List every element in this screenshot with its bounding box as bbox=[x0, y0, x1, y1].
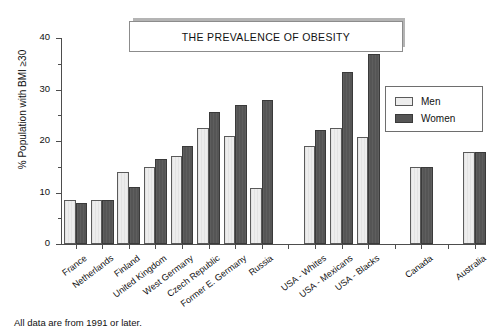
bar-women bbox=[182, 146, 193, 244]
bar-women bbox=[76, 203, 87, 244]
chart-footnote: All data are from 1991 or later. bbox=[14, 317, 142, 328]
x-tick bbox=[475, 245, 476, 249]
y-tick-label: 30 bbox=[26, 83, 50, 94]
chart-legend: Men Women bbox=[385, 86, 483, 132]
legend-swatch-women-icon bbox=[395, 114, 413, 123]
x-tick bbox=[102, 245, 103, 249]
bar-men bbox=[91, 200, 102, 244]
y-tick-major bbox=[56, 193, 62, 194]
x-tick bbox=[129, 245, 130, 249]
y-tick-label: 10 bbox=[26, 186, 50, 197]
bar-men bbox=[304, 146, 315, 244]
bar-men bbox=[117, 172, 128, 244]
bar-men bbox=[330, 128, 341, 244]
y-tick-major bbox=[56, 38, 62, 39]
bar-women bbox=[155, 159, 166, 244]
bar-women bbox=[475, 152, 486, 244]
bar-men bbox=[357, 137, 368, 244]
bar-women bbox=[209, 112, 220, 244]
x-tick bbox=[315, 245, 316, 249]
y-tick-minor bbox=[58, 167, 62, 168]
y-tick-major bbox=[56, 141, 62, 142]
legend-swatch-men-icon bbox=[395, 97, 413, 106]
bar-men bbox=[197, 128, 208, 244]
x-tick bbox=[76, 245, 77, 249]
x-tick bbox=[421, 245, 422, 249]
bar-men bbox=[64, 200, 75, 244]
bar-women bbox=[262, 100, 273, 244]
bar-women bbox=[315, 130, 326, 244]
bar-men bbox=[410, 167, 421, 244]
legend-entry-women: Women bbox=[395, 111, 455, 125]
x-tick-empty-slot bbox=[448, 245, 449, 249]
y-tick-major bbox=[56, 244, 62, 245]
bar-women bbox=[235, 105, 246, 244]
bar-women bbox=[129, 187, 140, 244]
bar-women bbox=[342, 72, 353, 244]
y-tick-major bbox=[56, 90, 62, 91]
legend-entry-men: Men bbox=[395, 94, 440, 108]
y-tick-minor bbox=[58, 64, 62, 65]
x-tick bbox=[262, 245, 263, 249]
x-tick bbox=[342, 245, 343, 249]
x-tick-empty-slot bbox=[395, 245, 396, 249]
bar-men bbox=[144, 167, 155, 244]
legend-label-women: Women bbox=[421, 113, 455, 124]
bar-men bbox=[171, 156, 182, 244]
y-tick-label: 40 bbox=[26, 31, 50, 42]
x-tick-empty-slot bbox=[288, 245, 289, 249]
bar-men bbox=[463, 152, 474, 244]
x-tick bbox=[368, 245, 369, 249]
y-tick-label: 0 bbox=[26, 237, 50, 248]
bar-men bbox=[250, 188, 261, 244]
chart-title: THE PREVALENCE OF OBESITY bbox=[182, 31, 350, 43]
legend-label-men: Men bbox=[421, 96, 440, 107]
x-tick bbox=[182, 245, 183, 249]
chart-figure: THE PREVALENCE OF OBESITY % Population w… bbox=[0, 0, 502, 336]
bar-women bbox=[368, 54, 379, 244]
y-tick-label: 20 bbox=[26, 134, 50, 145]
bar-women bbox=[421, 167, 432, 244]
bar-men bbox=[224, 136, 235, 244]
chart-title-box: THE PREVALENCE OF OBESITY bbox=[129, 21, 403, 52]
x-tick bbox=[235, 245, 236, 249]
y-tick-minor bbox=[58, 218, 62, 219]
y-tick-minor bbox=[58, 115, 62, 116]
x-tick bbox=[209, 245, 210, 249]
bar-women bbox=[102, 200, 113, 244]
x-tick bbox=[155, 245, 156, 249]
